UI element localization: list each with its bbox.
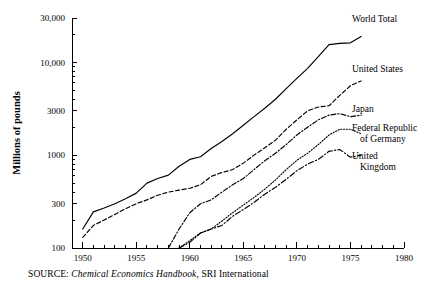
x-tick-label: 1980 bbox=[395, 253, 414, 263]
y-axis-title: Millions of pounds bbox=[11, 91, 22, 174]
y-tick-label: 100 bbox=[52, 243, 66, 253]
x-tick-label: 1970 bbox=[288, 253, 307, 263]
y-tick-label: 300 bbox=[52, 199, 66, 209]
source-rest: , SRI International bbox=[196, 269, 268, 279]
y-axis-title-group: Millions of pounds bbox=[11, 91, 22, 174]
y-tick-label: 3000 bbox=[47, 106, 66, 116]
x-tick-label: 1975 bbox=[341, 253, 360, 263]
y-tick-label: 1000 bbox=[47, 150, 66, 160]
series-label-germany-line2: of Germany bbox=[360, 134, 406, 144]
x-tick-label: 1965 bbox=[234, 253, 253, 263]
source-note: SOURCE: Chemical Economics Handbook, SRI… bbox=[28, 269, 269, 279]
source-label: SOURCE: bbox=[28, 269, 69, 279]
series-label-united-states: United States bbox=[352, 64, 403, 74]
series-line-japan bbox=[168, 114, 361, 248]
x-tick-label: 1950 bbox=[74, 253, 93, 263]
data-series-group bbox=[83, 36, 361, 248]
x-tick-label: 1955 bbox=[127, 253, 146, 263]
series-line-federal-republic-of-germany bbox=[179, 129, 361, 248]
line-chart-canvas: 30,00010,0003000100030010019501955196019… bbox=[0, 0, 437, 293]
series-line-world-total bbox=[83, 36, 361, 229]
x-tick-label: 1960 bbox=[181, 253, 200, 263]
chart-figure: 30,00010,0003000100030010019501955196019… bbox=[0, 0, 437, 293]
series-label-uk-line2: Kingdom bbox=[360, 162, 397, 172]
source-title: Chemical Economics Handbook bbox=[71, 269, 196, 279]
series-label-japan: Japan bbox=[352, 104, 374, 114]
series-label-uk-line1: United bbox=[352, 151, 378, 161]
series-line-united-kingdom bbox=[179, 150, 361, 248]
series-label-germany-line1: Federal Republic bbox=[352, 123, 417, 133]
series-label-world-total: World Total bbox=[352, 14, 397, 24]
series-labels-group: World TotalUnited StatesJapanFederal Rep… bbox=[352, 14, 417, 172]
y-tick-label: 30,000 bbox=[40, 13, 65, 23]
y-tick-label: 10,000 bbox=[40, 58, 65, 68]
